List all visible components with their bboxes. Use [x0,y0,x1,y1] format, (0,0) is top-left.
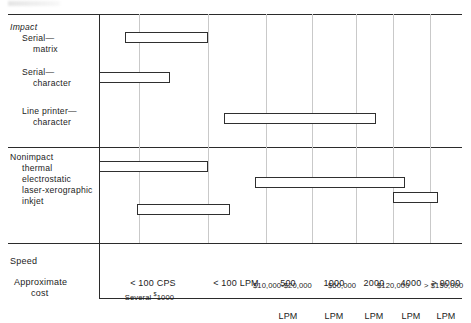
gridline-4 [312,14,313,243]
cost-tick-2: $60,000 [328,281,356,290]
row-label-thermal: thermal [22,163,52,174]
cost-row-label-1: Approximate [14,277,67,288]
bar-serial-matrix [125,32,208,43]
row-label-electrostatic: electrostatic [22,174,71,185]
row-label-serial-character-1: Serial— [22,67,54,78]
bar-line-printer-character [224,113,376,124]
speed-tick-6-line2: LPM [418,311,471,322]
row-label-laser-xerographic: laser-xerographic [22,185,93,196]
scan-artifact [8,1,60,6]
row-label-inkjet: inkjet [22,196,44,207]
bar-serial-character [99,72,170,83]
gridline-7 [430,14,431,243]
cost-tick-several: Several $1000 [116,281,174,311]
bar-inkjet [137,204,230,215]
gridline-3 [266,14,267,243]
cost-tick-several-prefix: Several [125,293,154,302]
cost-tick-4: > $150,000 [424,281,463,290]
gridline-5 [356,14,357,243]
y-axis-line [99,14,100,299]
bar-electrostatic [255,177,405,188]
rule-speed-divider [8,243,462,244]
cost-tick-1: $10,000-$20,000 [253,281,312,290]
row-label-line-printer-2: character [33,117,71,128]
row-label-serial-character-2: character [33,78,71,89]
gridline-6 [393,14,394,243]
bar-thermal [99,161,208,172]
group-heading-nonimpact: Nonimpact [10,152,53,163]
bar-laser-xerographic [393,192,438,203]
cost-row-label-2: cost [31,288,49,299]
speed-row-label: Speed [10,256,37,267]
row-label-line-printer-1: Line printer— [22,106,77,117]
cost-tick-3: $120,000 [377,281,409,290]
row-label-serial-matrix-1: Serial— [22,33,54,44]
cost-tick-several-suffix: 1000 [157,293,174,302]
group-heading-impact: Impact [10,22,37,33]
row-label-serial-matrix-2: matrix [33,44,58,55]
